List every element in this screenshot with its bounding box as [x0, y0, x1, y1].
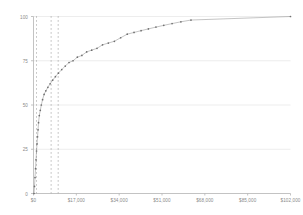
- axis-ticks: [31, 17, 291, 196]
- gridlines: [34, 17, 291, 150]
- y-axis-tick-label: 0: [6, 191, 28, 196]
- cdf-chart: 0255075100 $0$17,000$34,000$51,000$68,00…: [0, 0, 303, 215]
- y-axis-tick-label: 25: [6, 147, 28, 152]
- x-axis-tick-label: $102,000: [281, 198, 301, 203]
- x-axis-tick-label: $85,000: [239, 198, 256, 203]
- y-axis-tick-label: 50: [6, 103, 28, 108]
- x-axis-tick-label: $0: [31, 198, 36, 203]
- x-axis-tick-label: $17,000: [68, 198, 85, 203]
- x-axis-tick-label: $68,000: [196, 198, 213, 203]
- x-axis-tick-label: $34,000: [111, 198, 128, 203]
- y-axis-tick-label: 100: [6, 14, 28, 19]
- x-axis-tick-label: $51,000: [153, 198, 170, 203]
- plot-area: [0, 0, 303, 215]
- y-axis-tick-label: 75: [6, 58, 28, 63]
